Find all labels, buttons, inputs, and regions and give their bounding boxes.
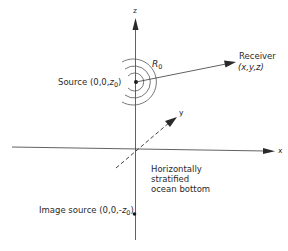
x-axis-arrow-icon [263, 148, 275, 154]
source-coords-prefix: (0,0, [90, 77, 110, 87]
receiver-name: Receiver [239, 51, 276, 61]
y-axis [116, 117, 177, 168]
image-source-coords-suffix: ) [130, 205, 133, 215]
y-axis-arrow-icon [165, 117, 177, 127]
y-axis-label: y [179, 108, 183, 118]
boundary-line-1: Horizontally [151, 164, 210, 174]
source-receiver-diagram: z x y Source (0,0,z0) R0 Receiver (x,y,z… [0, 0, 288, 251]
direct-ray [136, 61, 236, 83]
z-axis-arrow-icon [133, 18, 139, 30]
image-source-label: Image source (0,0,-z0) [39, 205, 134, 218]
boundary-line-3: ocean bottom [151, 184, 210, 194]
z-axis-label: z [133, 6, 137, 16]
source-label: Source (0,0,z0) [58, 77, 121, 90]
boundary-line-2: stratified [151, 174, 210, 184]
distance-label: R0 [152, 59, 162, 72]
distance-sub: 0 [158, 63, 162, 71]
boundary-label: Horizontally stratified ocean bottom [151, 164, 210, 194]
x-axis [12, 147, 275, 154]
ray-arrow-icon [224, 61, 236, 68]
source-coords-suffix: ) [118, 77, 121, 87]
image-source-name: Image source [39, 205, 97, 215]
receiver-coords: (x,y,z) [238, 62, 264, 72]
source-name: Source [58, 77, 87, 87]
image-source-coords-prefix: (0,0,- [99, 205, 122, 215]
x-axis-label: x [278, 146, 282, 156]
